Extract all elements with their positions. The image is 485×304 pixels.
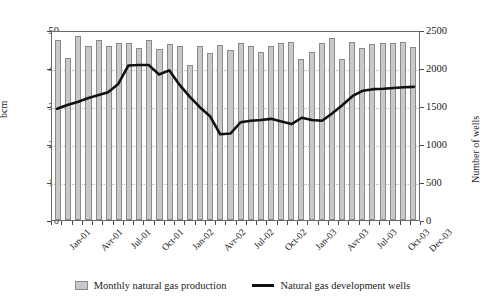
right-tick-mark	[420, 145, 424, 146]
right-tick-mark	[420, 183, 424, 184]
x-tick-label: Jul-03	[375, 227, 399, 251]
x-tick-label: Avr-03	[345, 227, 371, 253]
legend-label-production: Monthly natural gas production	[94, 280, 227, 291]
right-tick-mark	[420, 107, 424, 108]
right-tick-label: 1000	[426, 140, 447, 151]
plot-area	[51, 31, 420, 221]
right-axis-title: Number of wells	[470, 116, 481, 183]
left-axis-title: bcm	[0, 101, 9, 118]
x-tick-label: Oct-02	[283, 227, 309, 253]
x-tick-label: Jan-02	[191, 227, 216, 252]
bar-swatch-icon	[75, 281, 88, 290]
right-tick-label: 1500	[426, 102, 447, 113]
right-tick-label: 500	[426, 178, 442, 189]
chart-legend: Monthly natural gas production Natural g…	[0, 280, 485, 291]
line-series	[52, 32, 419, 220]
wells-line	[57, 65, 414, 134]
x-axis-labels: Jan-01Avr-01Jul-01Oct-01Jan-02Avr-02Jul-…	[0, 225, 485, 273]
x-tick-label: Jan-01	[68, 227, 93, 252]
right-tick-mark	[420, 31, 424, 32]
x-tick-label: Jan-03	[314, 227, 339, 252]
right-tick-label: 2000	[426, 64, 447, 75]
x-tick-label: Oct-01	[160, 227, 186, 253]
legend-item-wells: Natural gas development wells	[252, 280, 410, 291]
right-tick-label: 2500	[426, 26, 447, 37]
legend-item-production: Monthly natural gas production	[75, 280, 227, 291]
right-tick-mark	[420, 69, 424, 70]
chart-container: bcm 01020304050 Number of wells 05001000…	[0, 0, 485, 304]
x-tick-label: Avr-01	[99, 227, 125, 253]
x-tick-label: Oct-03	[406, 227, 432, 253]
x-tick-label: Jul-01	[129, 227, 153, 251]
x-tick-label: Avr-02	[222, 227, 248, 253]
x-tick-label: Jul-02	[252, 227, 276, 251]
line-series-svg	[52, 32, 419, 220]
x-tick-label: Dec-03	[427, 227, 454, 254]
line-swatch-icon	[252, 284, 274, 287]
legend-label-wells: Natural gas development wells	[280, 280, 410, 291]
